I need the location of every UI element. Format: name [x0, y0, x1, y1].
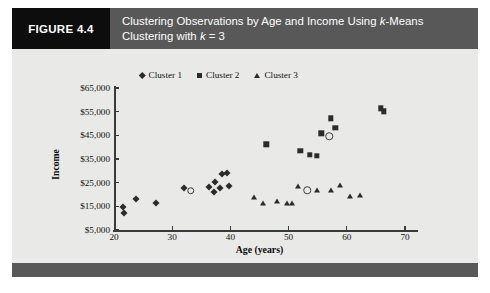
- data-point-triangle: [314, 187, 320, 192]
- data-point-triangle: [295, 183, 301, 188]
- data-point-diamond: [216, 184, 223, 191]
- data-point-square: [264, 142, 269, 147]
- data-point-triangle: [357, 192, 363, 197]
- x-axis-title: Age (years): [114, 244, 405, 255]
- y-tick-label: $65,000: [64, 83, 110, 93]
- x-tick-label: 70: [385, 232, 425, 242]
- caption-line-1-part-b: -Means: [385, 15, 423, 27]
- figure-header-bar: FIGURE 4.4 Clustering Observations by Ag…: [12, 8, 478, 49]
- y-tick-label: $15,000: [64, 201, 110, 211]
- diamond-marker-icon: [139, 72, 145, 78]
- data-point-diamond: [152, 200, 159, 207]
- data-point-triangle: [347, 194, 353, 199]
- x-tick-label: 50: [269, 232, 309, 242]
- y-tick-label: $55,000: [64, 107, 110, 117]
- figure-number-block: FIGURE 4.4: [12, 8, 110, 49]
- data-point-open-circle: [326, 133, 334, 141]
- legend-label: Cluster 1: [149, 70, 182, 80]
- chart-legend: Cluster 1Cluster 2Cluster 3: [140, 70, 298, 80]
- data-point-diamond: [211, 188, 218, 195]
- data-point-square: [318, 131, 323, 136]
- chart-panel: Cluster 1Cluster 2Cluster 3 Income Age (…: [12, 49, 478, 263]
- x-tick-label: 30: [152, 232, 192, 242]
- data-point-open-circle: [303, 186, 311, 194]
- y-tick-label: $45,000: [64, 130, 110, 140]
- data-point-diamond: [133, 195, 140, 202]
- legend-item-2: Cluster 2: [197, 70, 239, 80]
- data-point-triangle: [328, 187, 334, 192]
- legend-label: Cluster 3: [264, 70, 297, 80]
- data-point-diamond: [121, 210, 128, 217]
- plot-area: [114, 88, 405, 230]
- data-point-square: [332, 125, 337, 130]
- y-tick-label: $25,000: [64, 178, 110, 188]
- figure-footer-bar: [12, 263, 478, 277]
- data-point-triangle: [274, 199, 280, 204]
- data-point-diamond: [212, 178, 219, 185]
- legend-label: Cluster 2: [206, 70, 239, 80]
- caption-line-2: Clustering with k = 3: [122, 29, 472, 44]
- data-point-square: [307, 152, 312, 157]
- figure-container: FIGURE 4.4 Clustering Observations by Ag…: [0, 0, 490, 293]
- figure-caption: Clustering Observations by Age and Incom…: [122, 14, 472, 43]
- data-point-diamond: [223, 170, 230, 177]
- legend-item-1: Cluster 1: [140, 70, 182, 80]
- data-point-triangle: [289, 201, 295, 206]
- data-point-diamond: [226, 182, 233, 189]
- figure-number-label: FIGURE 4.4: [12, 8, 110, 49]
- legend-item-3: Cluster 3: [254, 70, 297, 80]
- data-point-triangle: [251, 194, 257, 199]
- caption-line-1-part-a: Clustering Observations by Age and Incom…: [122, 15, 380, 27]
- data-point-square: [314, 153, 319, 158]
- x-tick-label: 20: [94, 232, 134, 242]
- data-point-square: [381, 108, 386, 113]
- data-point-open-circle: [187, 187, 195, 195]
- y-tick-label: $35,000: [64, 154, 110, 164]
- data-point-square: [328, 116, 333, 121]
- triangle-marker-icon: [254, 73, 260, 78]
- y-axis-title: Income: [50, 149, 61, 179]
- data-point-triangle: [260, 201, 266, 206]
- square-marker-icon: [197, 73, 202, 78]
- caption-line-1: Clustering Observations by Age and Incom…: [122, 14, 472, 29]
- data-point-triangle: [337, 182, 343, 187]
- x-tick-label: 40: [210, 232, 250, 242]
- caption-line-2-part-a: Clustering with: [122, 30, 200, 42]
- x-tick-label: 60: [327, 232, 367, 242]
- data-point-square: [298, 148, 303, 153]
- caption-line-2-part-b: = 3: [206, 30, 225, 42]
